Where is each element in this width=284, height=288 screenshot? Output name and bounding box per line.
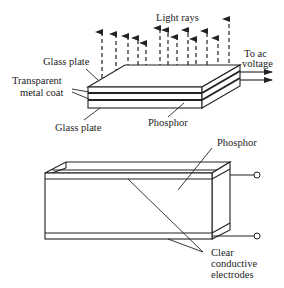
label-phosphor-top: Phosphor — [148, 117, 188, 128]
label-conductive: conductive — [211, 258, 257, 269]
label-to-ac-2: voltage — [242, 58, 273, 69]
label-light-rays: Light rays — [156, 12, 199, 23]
layered-slab — [88, 65, 240, 108]
terminal-icon — [254, 233, 260, 239]
label-metal-coat: metal coat — [20, 87, 64, 98]
ac-voltage-leads — [240, 72, 272, 80]
label-phosphor-bottom: Phosphor — [217, 137, 257, 148]
label-transparent: Transparent — [12, 75, 62, 86]
phosphor-box — [45, 162, 230, 239]
diagram-canvas: Light rays To ac voltage Glass plate Tra… — [0, 0, 284, 288]
label-glass-plate-top: Glass plate — [43, 56, 90, 67]
label-glass-plate-bottom: Glass plate — [55, 122, 102, 133]
label-clear: Clear — [211, 247, 234, 258]
terminal-icon — [254, 172, 260, 178]
label-electrodes: electrodes — [211, 269, 254, 280]
